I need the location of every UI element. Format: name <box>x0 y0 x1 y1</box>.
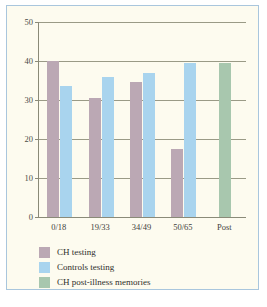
bar-group <box>163 22 204 217</box>
bar <box>102 77 114 217</box>
y-axis-tick-label: 40 <box>25 57 34 66</box>
y-axis-tick-label: 0 <box>29 213 33 222</box>
bar <box>60 86 72 217</box>
bar-group <box>205 22 246 217</box>
plot-area: 01020304050 <box>38 22 246 218</box>
legend-swatch <box>39 277 50 288</box>
y-axis-tick-label: 20 <box>25 135 34 144</box>
x-axis-tick-label: 34/49 <box>132 223 151 232</box>
x-axis-tick-label: Post <box>217 223 232 232</box>
bar <box>219 63 231 217</box>
figure: 01020304050 0/1819/3334/4950/65Post CH t… <box>0 0 267 307</box>
legend-swatch <box>39 247 50 258</box>
y-tick-mark <box>35 217 39 218</box>
bar <box>130 82 142 217</box>
bar <box>184 63 196 217</box>
y-axis-tick-label: 50 <box>25 18 34 27</box>
bar <box>89 98 101 217</box>
x-axis-tick-labels: 0/1819/3334/4950/65Post <box>38 223 246 237</box>
bars-layer <box>39 22 246 217</box>
chart-legend: CH testingControls testingCH post-illnes… <box>39 245 239 290</box>
legend-label: CH testing <box>57 248 96 257</box>
bar-group <box>39 22 80 217</box>
legend-label: Controls testing <box>57 263 114 272</box>
bar-group <box>80 22 121 217</box>
legend-item: Controls testing <box>39 260 239 275</box>
legend-item: CH post-illness memories <box>39 275 239 290</box>
legend-label: CH post-illness memories <box>57 278 151 287</box>
bar <box>47 61 59 217</box>
x-axis-tick-label: 0/18 <box>51 223 66 232</box>
chart-frame: 01020304050 0/1819/3334/4950/65Post CH t… <box>6 5 259 290</box>
x-axis-tick-label: 50/65 <box>173 223 192 232</box>
bar <box>143 73 155 217</box>
bar <box>171 149 183 217</box>
y-axis-tick-label: 30 <box>25 96 34 105</box>
y-axis-tick-label: 10 <box>25 174 34 183</box>
legend-item: CH testing <box>39 245 239 260</box>
bar-group <box>122 22 163 217</box>
legend-swatch <box>39 262 50 273</box>
x-axis-tick-label: 19/33 <box>90 223 109 232</box>
